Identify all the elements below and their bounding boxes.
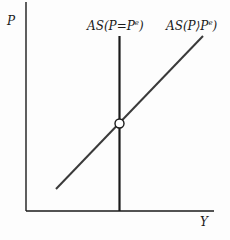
vertical-as-label: AS(P=Pe) — [86, 19, 144, 33]
x-axis-label: Y — [200, 215, 209, 229]
upward-as-label: AS(P⟩Pe) — [165, 19, 218, 33]
diagram-canvas: P Y AS(P=Pe) AS(P⟩Pe) — [0, 0, 230, 240]
equilibrium-point — [115, 119, 124, 128]
y-axis-label: P — [6, 14, 16, 28]
as-diagram: P Y AS(P=Pe) AS(P⟩Pe) — [0, 0, 230, 240]
upward-as-curve — [56, 36, 203, 189]
